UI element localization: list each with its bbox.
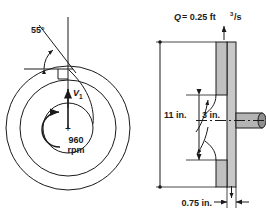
diagram-svg: + 55° V 1 960 rpm <box>0 0 266 218</box>
dimension-width: 0.75 in. <box>181 186 249 208</box>
dim-width-label: 0.75 in. <box>181 198 212 208</box>
front-shroud-upper <box>216 42 227 95</box>
flow-rate-unit-tail: /s <box>234 12 242 22</box>
speed-unit-label: rpm <box>67 145 84 155</box>
flow-rate-symbol: Q <box>174 12 181 22</box>
angle-arc <box>44 50 53 69</box>
flow-rate-value: = 0.25 ft <box>182 12 216 22</box>
side-section-view: Q = 0.25 ft 3 /s 11 in. 3 in. 0.75 in. <box>156 11 266 208</box>
back-plate <box>227 42 236 187</box>
front-view: + 55° V 1 960 rpm <box>6 17 130 190</box>
center-mark: + <box>65 123 71 134</box>
right-angle-marker <box>58 69 68 79</box>
velocity-label-subscript: 1 <box>79 93 83 100</box>
dimension-inner: 3 in. <box>186 95 220 160</box>
dim-inner-label: 3 in. <box>202 110 220 120</box>
speed-value-label: 960 <box>68 135 83 145</box>
figure-container: + 55° V 1 960 rpm <box>0 0 266 218</box>
dim-outer-label: 11 in. <box>164 110 187 120</box>
blade-angle-label: 55° <box>31 25 45 35</box>
rotation-arrow <box>42 112 60 147</box>
velocity-label: V 1 <box>73 88 83 100</box>
inlet-wall-lower <box>205 141 216 160</box>
front-shroud-lower <box>216 160 227 187</box>
flow-rate-label: Q = 0.25 ft 3 /s <box>174 11 242 22</box>
